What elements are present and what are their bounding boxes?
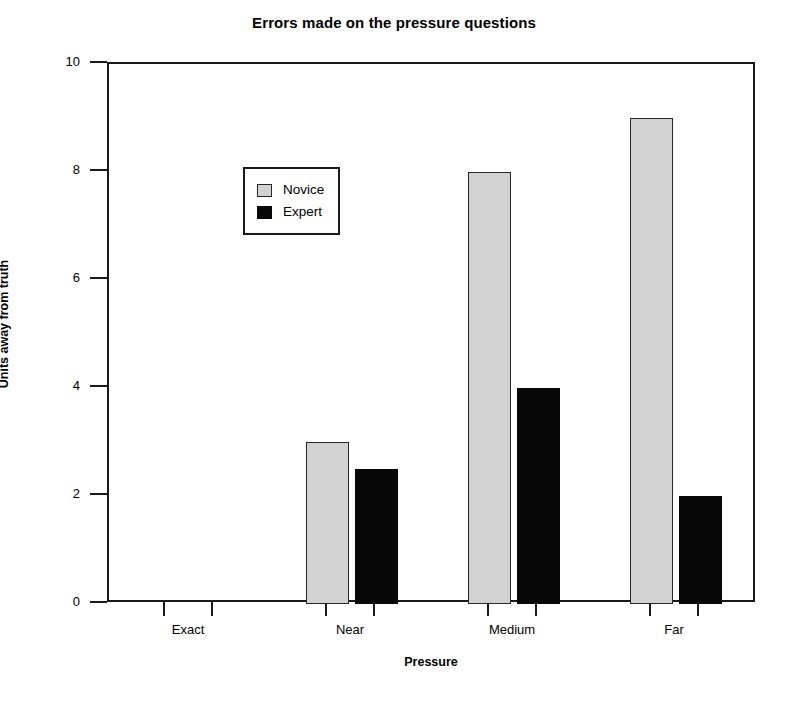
y-axis-tick-label: 4 <box>20 379 80 392</box>
y-axis-tick-label: 6 <box>20 271 80 284</box>
x-axis-tick-mark <box>697 602 699 616</box>
bar-far-novice <box>630 118 674 604</box>
x-axis-title: Pressure <box>107 655 755 669</box>
legend-swatch-expert-icon <box>257 206 272 219</box>
y-axis-tick-mark <box>90 601 107 603</box>
legend-label: Expert <box>283 205 322 219</box>
chart-legend: NoviceExpert <box>243 167 340 235</box>
x-axis-tick-mark <box>649 602 651 616</box>
x-axis-tick-mark <box>211 602 213 616</box>
bar-chart-figure: Errors made on the pressure questions Un… <box>0 0 788 703</box>
y-axis-tick-mark <box>90 385 107 387</box>
x-axis-tick-mark <box>487 602 489 616</box>
chart-title: Errors made on the pressure questions <box>0 14 788 31</box>
x-axis-tick-label: Far <box>604 622 744 637</box>
legend-swatch-novice-icon <box>257 184 272 197</box>
x-axis-tick-label: Near <box>280 622 420 637</box>
plot-area <box>107 62 755 602</box>
y-axis-tick-label: 8 <box>20 163 80 176</box>
bar-medium-expert <box>517 388 561 604</box>
x-axis-tick-label: Exact <box>118 622 258 637</box>
x-axis-tick-mark <box>163 602 165 616</box>
y-axis-title: Units away from truth <box>0 54 11 594</box>
bar-near-novice <box>306 442 350 604</box>
y-axis-tick-mark <box>90 493 107 495</box>
bar-medium-novice <box>468 172 512 604</box>
x-axis-tick-mark <box>325 602 327 616</box>
y-axis-tick-mark <box>90 277 107 279</box>
y-axis-tick-mark <box>90 169 107 171</box>
legend-item-novice: Novice <box>257 179 324 201</box>
legend-rows: NoviceExpert <box>257 179 324 223</box>
legend-item-expert: Expert <box>257 201 324 223</box>
x-axis-tick-label: Medium <box>442 622 582 637</box>
x-axis-tick-mark <box>535 602 537 616</box>
bar-near-expert <box>355 469 399 604</box>
y-axis-tick-label: 10 <box>20 55 80 68</box>
bar-far-expert <box>679 496 723 604</box>
x-axis-tick-mark <box>373 602 375 616</box>
y-axis-tick-label: 0 <box>20 595 80 608</box>
y-axis-tick-label: 2 <box>20 487 80 500</box>
y-axis-tick-mark <box>90 61 107 63</box>
legend-label: Novice <box>283 183 324 197</box>
